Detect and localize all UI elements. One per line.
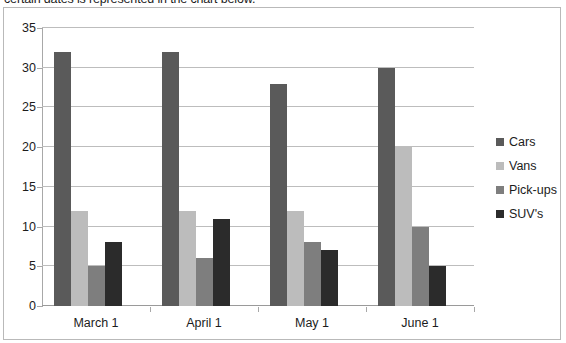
y-axis-label: 15	[22, 180, 36, 194]
bar-cars-april-1	[162, 52, 179, 306]
x-tick	[258, 307, 259, 312]
legend-label: Vans	[509, 159, 537, 173]
bar-pick-ups-may-1	[304, 242, 321, 306]
legend-item-pick-ups[interactable]: Pick-ups	[496, 178, 558, 202]
bar-cars-march-1	[54, 52, 71, 306]
gridline-30	[42, 67, 474, 68]
bar-vans-june-1	[395, 147, 412, 306]
bar-suv-s-june-1	[429, 266, 446, 306]
bar-pick-ups-april-1	[196, 258, 213, 306]
plot-area	[42, 28, 474, 306]
legend-item-suv-s[interactable]: SUV's	[496, 202, 558, 226]
y-axis-label: 35	[22, 21, 36, 35]
y-tick-0	[37, 306, 43, 307]
y-axis-label: 30	[22, 61, 36, 75]
y-axis-label: 10	[22, 220, 36, 234]
x-axis-label-may-1: May 1	[295, 316, 329, 330]
legend-swatch-icon	[496, 162, 504, 170]
legend-label: Cars	[509, 135, 535, 149]
x-tick	[366, 307, 367, 312]
bar-suv-s-april-1	[213, 219, 230, 306]
bar-cars-june-1	[378, 68, 395, 306]
x-axis-label-march-1: March 1	[73, 316, 118, 330]
x-tick	[150, 307, 151, 312]
chart-container: 05101520253035 March 1April 1May 1June 1…	[3, 7, 561, 340]
y-axis-label: 25	[22, 100, 36, 114]
legend-swatch-icon	[496, 186, 504, 194]
gridline-25	[42, 106, 474, 107]
intro-sentence: certain dates is represented in the char…	[4, 0, 544, 6]
y-axis-label: 20	[22, 140, 36, 154]
x-axis-label-june-1: June 1	[401, 316, 439, 330]
bar-vans-march-1	[71, 211, 88, 306]
chart-legend: CarsVansPick-upsSUV's	[496, 130, 558, 226]
y-axis-label: 0	[29, 299, 36, 313]
x-tick	[474, 307, 475, 312]
bar-suv-s-march-1	[105, 242, 122, 306]
bar-vans-april-1	[179, 211, 196, 306]
gridline-35	[42, 27, 474, 28]
legend-item-vans[interactable]: Vans	[496, 154, 558, 178]
legend-label: Pick-ups	[509, 183, 557, 197]
bar-suv-s-may-1	[321, 250, 338, 306]
legend-label: SUV's	[509, 207, 543, 221]
legend-swatch-icon	[496, 138, 504, 146]
x-axis-label-april-1: April 1	[186, 316, 221, 330]
bar-pick-ups-march-1	[88, 266, 105, 306]
bar-vans-may-1	[287, 211, 304, 306]
bar-cars-may-1	[270, 84, 287, 306]
bar-pick-ups-june-1	[412, 227, 429, 306]
legend-swatch-icon	[496, 210, 504, 218]
y-axis-label: 5	[29, 259, 36, 273]
legend-item-cars[interactable]: Cars	[496, 130, 558, 154]
